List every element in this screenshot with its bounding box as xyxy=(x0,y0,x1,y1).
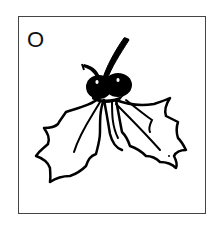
holly-icon xyxy=(0,0,219,228)
